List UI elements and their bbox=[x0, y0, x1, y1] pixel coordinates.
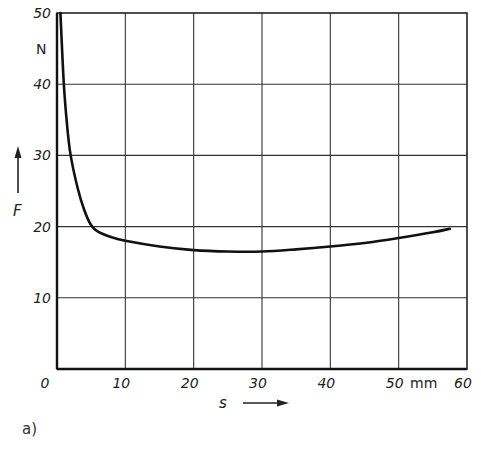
y-axis-label: F bbox=[13, 202, 22, 220]
y-tick-label: 50 bbox=[33, 5, 51, 21]
x-tick-label: 50 bbox=[386, 375, 404, 391]
y-tick-label: 10 bbox=[33, 290, 51, 306]
x-tick-label: 40 bbox=[317, 375, 335, 391]
y-tick-label: 30 bbox=[33, 147, 51, 163]
x-tick-label: 0 bbox=[41, 375, 50, 391]
x-tick-label: 10 bbox=[112, 375, 130, 391]
x-unit-label: mm bbox=[410, 375, 437, 391]
y-axis-arrow-icon bbox=[15, 146, 22, 193]
y-tick-label: 40 bbox=[33, 76, 51, 92]
grid-lines bbox=[57, 13, 467, 369]
y-unit-label: N bbox=[36, 41, 46, 57]
x-tick-label: 20 bbox=[181, 375, 199, 391]
x-tick-label: 30 bbox=[249, 375, 267, 391]
x-axis-label: s bbox=[219, 394, 227, 412]
y-tick-label: 20 bbox=[33, 219, 51, 235]
figure-caption: a) bbox=[22, 420, 37, 438]
force-curve bbox=[60, 13, 450, 252]
force-displacement-chart: 1020304050 0102030405060 N mm F s bbox=[0, 0, 481, 461]
x-axis-arrow-icon bbox=[243, 400, 289, 407]
x-tick-label: 60 bbox=[454, 375, 472, 391]
x-tick-labels: 0102030405060 bbox=[41, 375, 472, 391]
